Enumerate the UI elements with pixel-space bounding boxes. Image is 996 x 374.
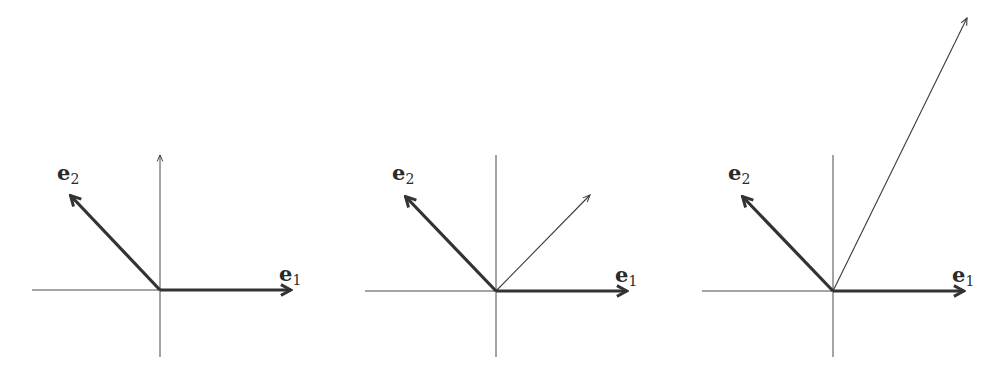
panel-3: e1e2 [702, 18, 974, 357]
transformed-vector-arrow [496, 195, 590, 291]
panel-1: e1e2 [32, 155, 301, 357]
basis-vector-diagram: e1e2e1e2e1e2 [0, 0, 996, 374]
e2-label: e2 [392, 160, 414, 187]
e1-label: e1 [952, 262, 974, 289]
e2-vector-arrow [743, 197, 834, 292]
e2-label: e2 [728, 160, 750, 187]
e1-label: e1 [615, 262, 637, 289]
panel-2: e1e2 [365, 155, 637, 357]
e2-vector-arrow [71, 196, 161, 291]
e1-label: e1 [279, 261, 301, 288]
e2-label: e2 [57, 160, 79, 187]
e2-vector-arrow [406, 197, 497, 292]
transformed-vector-arrow [833, 18, 967, 291]
